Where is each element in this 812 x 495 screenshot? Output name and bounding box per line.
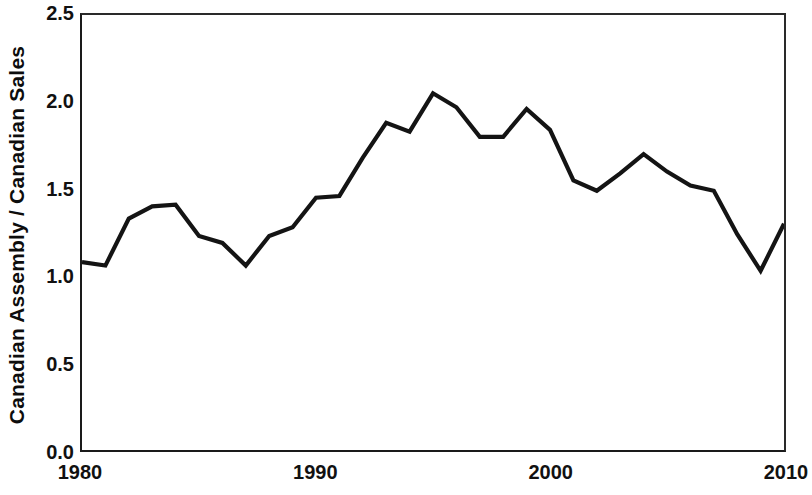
data-series-line (82, 93, 784, 270)
x-axis-tick-label: 1980 (20, 462, 140, 482)
line-chart-svg (82, 15, 784, 450)
x-axis-tick-label: 1990 (255, 462, 375, 482)
plot-area (80, 13, 786, 452)
x-axis-tick-label: 2000 (491, 462, 611, 482)
x-axis-tick-label: 2010 (726, 462, 812, 482)
